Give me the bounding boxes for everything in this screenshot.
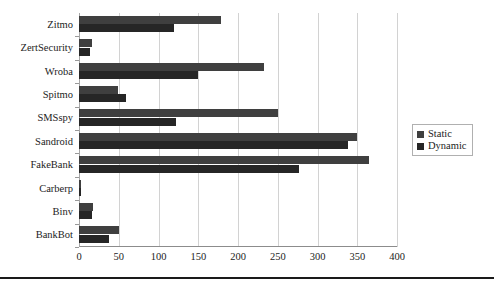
legend-label-static: Static — [428, 128, 452, 140]
x-tick-label: 50 — [114, 252, 125, 263]
legend-item-static: Static — [417, 128, 467, 140]
legend-swatch-icon-static — [417, 131, 424, 138]
chart-legend: Static Dynamic — [412, 124, 473, 156]
x-tick-label: 300 — [310, 252, 326, 263]
x-tick-label: 200 — [230, 252, 246, 263]
bar-chart-figure: ZitmoZertSecurityWrobaSpitmoSMSspySandro… — [0, 0, 494, 289]
x-tick-label: 150 — [190, 252, 206, 263]
legend-item-dynamic: Dynamic — [417, 140, 467, 152]
x-tick-label: 100 — [151, 252, 167, 263]
x-tick-label: 250 — [270, 252, 286, 263]
x-tick-label: 0 — [76, 252, 81, 263]
x-tick-label: 400 — [389, 252, 405, 263]
legend-swatch-icon-dynamic — [417, 143, 424, 150]
footer-rule — [0, 277, 494, 279]
x-tick-label: 350 — [349, 252, 365, 263]
legend-label-dynamic: Dynamic — [428, 140, 467, 152]
